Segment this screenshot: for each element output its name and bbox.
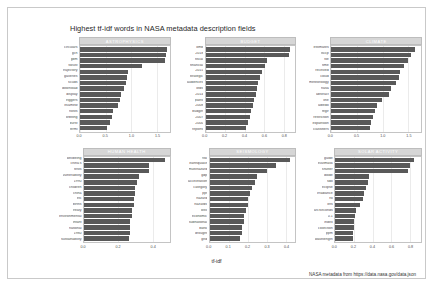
bar	[335, 197, 363, 201]
x-axis-tick-label: 0.6	[262, 134, 267, 138]
bar	[84, 174, 139, 178]
bar-slot	[210, 174, 296, 178]
x-axis-tick-label: 0.6	[389, 245, 394, 249]
y-axis-tick-label: estimates	[313, 46, 328, 50]
plot-area	[79, 45, 171, 133]
bar	[206, 86, 258, 90]
bar-slot	[335, 169, 421, 173]
y-axis-tick-label: galleries	[64, 75, 77, 79]
panel-row: omb2018fiscalfinancial2015strategicaudie…	[178, 45, 297, 133]
y-axis-tick-label: eclipse	[322, 186, 333, 190]
bar-slot	[331, 53, 421, 57]
y-axis-tick-label: triggers	[66, 99, 78, 103]
bar-slot	[335, 214, 421, 218]
y-axis-tick-label: download	[62, 87, 77, 91]
bar	[210, 169, 267, 173]
bar	[80, 115, 112, 119]
facet-grid: ASTROPHYSICScircularsgcngbmswusttrajecto…	[52, 37, 422, 252]
bar-slot	[335, 225, 421, 229]
bar	[331, 75, 399, 79]
bar	[206, 64, 265, 68]
bar	[331, 126, 370, 130]
y-axis-tick-label: meteorology	[309, 81, 329, 85]
bar	[335, 186, 366, 190]
x-axis-tick-label: 0.8	[408, 245, 413, 249]
page-title: Highest tf-idf words in NASA metadata de…	[70, 24, 256, 33]
x-axis-tick-label: 0.2	[222, 134, 227, 138]
bar-slot	[206, 120, 296, 124]
y-axis-tick-label: line	[323, 99, 329, 103]
facet-strip-label: ASTROPHYSICS	[79, 37, 171, 45]
bar	[331, 86, 391, 90]
bar	[84, 203, 134, 207]
bar-series	[335, 157, 421, 243]
y-axis-tick-labels: guideeuvimaskshutterdiodesdoeclipseirrad…	[303, 156, 334, 244]
plot-area	[330, 45, 422, 133]
x-axis-label: tf-idf	[8, 258, 425, 264]
bar	[206, 126, 246, 130]
facet-strip-label: SEISMOLOGY	[209, 148, 297, 156]
y-axis-tick-label: risk	[202, 157, 208, 161]
bar-slot	[206, 75, 296, 79]
y-axis-tick-label: hazards	[194, 203, 207, 207]
panel-row: guideeuvimaskshutterdiodesdoeclipseirrad…	[303, 156, 422, 244]
bar-slot	[80, 115, 170, 119]
bar	[331, 81, 396, 85]
bar	[210, 231, 242, 235]
facet-panel-astrophysics: ASTROPHYSICScircularsgcngbmswusttrajecto…	[52, 37, 171, 142]
bar	[335, 214, 355, 218]
y-axis-tick-label: guide	[324, 157, 333, 161]
x-axis: 0.00.20.4	[83, 243, 171, 252]
bar	[80, 53, 166, 57]
y-axis-tick-label: euvimask	[318, 162, 333, 166]
bar	[80, 92, 121, 96]
bar	[206, 98, 255, 102]
y-axis-tick-label: cloud	[320, 75, 329, 79]
facet-strip-label: CLIMATE	[330, 37, 422, 45]
x-axis: 0.00.20.40.60.8	[334, 243, 422, 252]
bar	[335, 203, 360, 207]
y-axis-tick-label: ppt	[202, 192, 207, 196]
bar	[84, 158, 165, 162]
y-axis-tick-label: time	[322, 64, 329, 68]
facet-panel-human-health: HUMAN HEALTHwellbeingchina'stestsvulnera…	[52, 148, 171, 253]
y-axis-tick-label: fsi	[329, 197, 333, 201]
bar	[206, 58, 267, 62]
bar	[84, 197, 134, 201]
bar-slot	[84, 174, 170, 178]
y-axis-tick-label: 0.1	[328, 215, 333, 219]
bar	[80, 75, 127, 79]
bar-slot	[210, 180, 296, 184]
y-axis-tick-label: gcn	[72, 52, 78, 56]
bar	[331, 115, 372, 119]
y-axis-tick-label: grid	[201, 238, 207, 242]
x-axis-tick-label: 0.0	[328, 134, 333, 138]
bar-slot	[80, 70, 170, 74]
bar-slot	[335, 180, 421, 184]
bar-series	[80, 46, 170, 132]
bar	[84, 169, 149, 173]
bar-slot	[210, 219, 296, 223]
bar	[80, 64, 142, 68]
facet-strip-label: BUDGET	[205, 37, 297, 45]
bar-slot	[84, 219, 170, 223]
y-axis-tick-label: nasa	[321, 87, 329, 91]
bar-slot	[210, 225, 296, 229]
bar-slot	[84, 231, 170, 235]
bar	[80, 126, 107, 130]
x-axis-tick-label: 0.0	[206, 245, 211, 249]
bar-slot	[331, 64, 421, 68]
bar	[331, 53, 410, 57]
facet-strip-label: SOLAR ACTIVITY	[334, 148, 422, 156]
y-axis-tick-label: wavelength	[315, 238, 333, 242]
bar-slot	[335, 231, 421, 235]
bar-slot	[84, 180, 170, 184]
bar	[206, 53, 289, 57]
bar	[331, 58, 408, 62]
bar	[80, 81, 126, 85]
y-axis-tick-label: isccp	[321, 52, 329, 56]
bar	[80, 86, 124, 90]
bar-slot	[84, 203, 170, 207]
bar-slot	[206, 58, 296, 62]
y-axis-tick-label: infant	[73, 221, 82, 225]
